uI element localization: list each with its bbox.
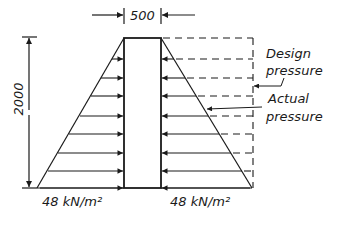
left-pressure-arrows (40, 59, 123, 188)
width-label: 500 (130, 8, 155, 23)
design-label-line1: Design (266, 46, 311, 61)
wall-section (124, 38, 161, 188)
design-label-line2: pressure (265, 63, 323, 78)
pressure-diagram: 500 2000 (0, 0, 347, 225)
design-pressure-envelope (163, 38, 253, 188)
right-pressure-triangle (161, 38, 252, 188)
left-base-pressure-label: 48 kN/m² (42, 194, 102, 209)
design-leader (254, 78, 284, 86)
left-pressure-triangle (37, 38, 124, 188)
height-label: 2000 (11, 82, 26, 115)
actual-label-line2: pressure (265, 109, 323, 124)
right-base-pressure-label: 48 kN/m² (170, 194, 230, 209)
actual-leader (207, 107, 262, 109)
actual-label-line1: Actual (267, 91, 309, 106)
